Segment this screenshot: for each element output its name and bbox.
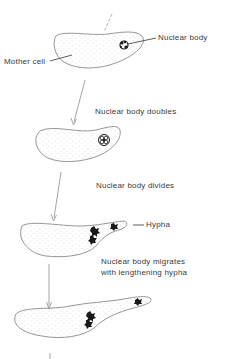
label-migrates-2: with lengthening hypha	[101, 268, 187, 278]
label-nuclear-body: Nuclear body	[158, 33, 208, 43]
label-migrates-1: Nuclear body migrates	[101, 257, 185, 267]
top-dashed-line	[104, 14, 112, 32]
label-hypha: Hypha	[146, 220, 170, 230]
arrow-1	[71, 80, 85, 125]
arrow-2	[51, 172, 61, 221]
cell-stage-4	[15, 297, 151, 338]
label-mother-cell: Mother cell	[4, 57, 45, 67]
arrow-3	[47, 264, 52, 309]
label-doubles: Nuclear body doubles	[95, 107, 176, 117]
cell-stage-3	[21, 221, 127, 257]
mother-cell-shape	[54, 32, 143, 68]
label-divides: Nuclear body divides	[96, 181, 174, 191]
diagram-canvas	[0, 0, 228, 359]
